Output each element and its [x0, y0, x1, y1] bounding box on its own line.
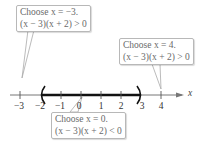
callout-line: Choose x = −3.: [20, 7, 87, 19]
tick-label: 0: [77, 101, 82, 111]
axis-variable-label: x: [188, 88, 192, 98]
tick-label: 1: [99, 101, 104, 111]
tick-label: −2: [35, 101, 45, 111]
callout-line: (x − 3)(x + 2) > 0: [20, 19, 87, 31]
callout-line: (x − 3)(x + 2) < 0: [55, 126, 122, 138]
callout-test-point-4: Choose x = 4. (x − 3)(x + 2) > 0: [119, 38, 194, 65]
callout-line: Choose x = 4.: [123, 40, 190, 52]
tick-label: −3: [14, 101, 24, 111]
tick-label: 2: [119, 101, 124, 111]
axis-arrow-icon: [176, 93, 184, 98]
tick-label: 4: [159, 101, 164, 111]
callout-pointer-1: [22, 30, 34, 78]
callout-test-point-neg3: Choose x = −3. (x − 3)(x + 2) > 0: [16, 5, 91, 32]
callout-line: Choose x = 0.: [55, 114, 122, 126]
callout-pointer-2: [152, 64, 161, 89]
callout-line: (x − 3)(x + 2) > 0: [123, 52, 190, 64]
tick-label: −1: [55, 101, 65, 111]
tick-label: 3: [140, 101, 145, 111]
callout-test-point-0: Choose x = 0. (x − 3)(x + 2) < 0: [51, 112, 126, 139]
